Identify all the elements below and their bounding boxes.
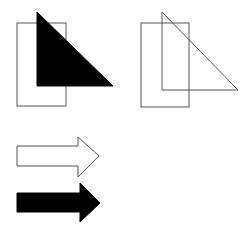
right-rectangle-outline [141,23,189,107]
diagram-canvas [0,0,247,232]
group-left-filled-triangle-over-rectangle [17,12,113,106]
right-outline-triangle [162,12,238,90]
left-filled-triangle [37,12,113,86]
filled-right-arrow-icon [17,183,100,222]
group-right-outline-triangle-over-rectangle [141,12,238,107]
outline-right-arrow-icon [17,137,99,177]
